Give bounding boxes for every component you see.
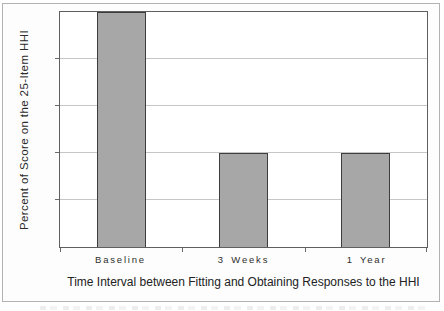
x-axis-tick (426, 248, 427, 252)
x-axis-title: Time Interval between Fitting and Obtain… (59, 275, 428, 289)
bars (60, 12, 427, 247)
y-axis-title: Percent of Score on the 25-Item HHI (7, 11, 41, 248)
y-axis-tick (55, 152, 59, 153)
tick-label-1-year: 1 Year (305, 254, 428, 267)
bar-slot-1-year (305, 12, 427, 247)
bar-1-year (341, 153, 390, 247)
x-axis-tick (182, 248, 183, 252)
figure-frame: Percent of Score on the 25-Item HHI Base… (2, 3, 440, 302)
bar-slot-baseline (60, 12, 182, 247)
y-axis-title-text: Percent of Score on the 25-Item HHI (18, 29, 30, 229)
plot-area (59, 11, 428, 248)
y-axis-tick (55, 199, 59, 200)
y-axis-tick (55, 58, 59, 59)
x-axis-tick (305, 248, 306, 252)
x-axis-tick (60, 248, 61, 252)
tick-label-baseline: Baseline (59, 254, 182, 267)
bar-3-weeks (219, 153, 268, 247)
bar-slot-3-weeks (182, 12, 304, 247)
y-axis-tick (55, 105, 59, 106)
cropped-caption-remnant (40, 306, 430, 310)
x-axis-tick-labels: Baseline 3 Weeks 1 Year (59, 254, 428, 267)
bar-baseline (97, 12, 146, 247)
tick-label-3-weeks: 3 Weeks (182, 254, 305, 267)
